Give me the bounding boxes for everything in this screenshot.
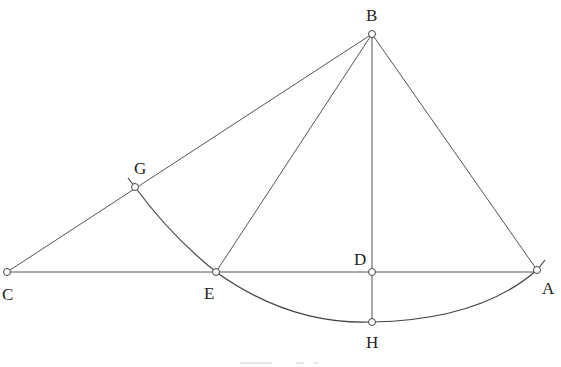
- point-H: [369, 319, 376, 326]
- figure-caption-cropped: [230, 362, 330, 367]
- point-G: [132, 184, 139, 191]
- point-E: [213, 269, 220, 276]
- label-B: B: [366, 6, 377, 25]
- label-C: C: [2, 285, 13, 304]
- segment-CB: [7, 34, 372, 272]
- label-D: D: [354, 250, 366, 269]
- point-A: [534, 267, 541, 274]
- arc-E-H-A: [216, 260, 545, 322]
- label-A: A: [542, 279, 555, 298]
- segment-BA: [372, 34, 537, 270]
- point-D: [369, 269, 376, 276]
- label-G: G: [134, 159, 146, 178]
- label-H: H: [366, 333, 378, 352]
- point-B: [369, 31, 376, 38]
- geometry-diagram: B G D C E A H: [0, 0, 561, 367]
- point-C: [4, 269, 11, 276]
- segment-BE: [216, 34, 372, 272]
- diagram-canvas: B G D C E A H: [0, 0, 561, 367]
- arc-G-E: [128, 178, 216, 272]
- label-E: E: [204, 284, 214, 303]
